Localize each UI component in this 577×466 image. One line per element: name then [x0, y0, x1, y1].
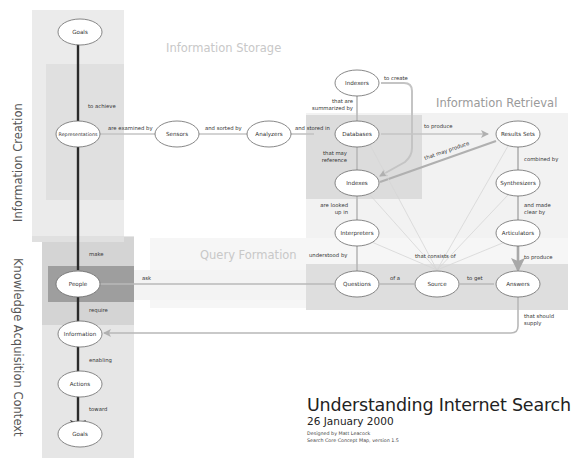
node-indexers[interactable]: Indexers — [335, 70, 379, 96]
node-goals-top[interactable]: Goals — [58, 19, 102, 45]
map-version: Search Core Concept Map, version 1.5 — [307, 437, 571, 444]
edge-label-to-get: to get — [467, 275, 483, 282]
node-sensors[interactable]: Sensors — [155, 121, 199, 147]
edge-label-to-produce-results: to produce — [424, 123, 453, 130]
svg-text:Information: Information — [64, 331, 97, 337]
svg-text:Indexers: Indexers — [345, 80, 369, 86]
side-title-information-creation: Information Creation — [11, 103, 25, 222]
node-results-sets[interactable]: Results Sets — [496, 121, 540, 147]
svg-text:Databases: Databases — [342, 131, 372, 137]
edge-label-ask: ask — [142, 275, 152, 281]
node-actions[interactable]: Actions — [58, 371, 102, 397]
svg-text:Interpreters: Interpreters — [340, 230, 373, 237]
svg-text:Answers: Answers — [506, 281, 530, 287]
title-block: Understanding Internet Search 26 January… — [307, 395, 571, 444]
edge-label-toward: toward — [89, 406, 107, 412]
edge-label-to-produce-answers: to produce — [524, 254, 553, 261]
edge-label-of-a: of a — [390, 275, 400, 281]
designer-credit: Designed by Matt Leacock Search Core Con… — [307, 430, 571, 444]
edge-label-make: make — [89, 251, 104, 257]
svg-text:People: People — [69, 281, 88, 288]
concept-map: Information Storage Information Retrieva… — [0, 0, 577, 466]
svg-text:Results Sets: Results Sets — [501, 131, 535, 137]
node-answers[interactable]: Answers — [496, 271, 540, 297]
edge-label-require: require — [89, 307, 108, 314]
node-source[interactable]: Source — [415, 271, 459, 297]
page-title: Understanding Internet Search — [307, 395, 571, 415]
edge-label-reference: reference — [322, 157, 347, 163]
title-date: 26 January 2000 — [307, 415, 571, 427]
edge-label-and-sorted-by: and sorted by — [205, 125, 242, 132]
edge-label-are-examined-by: are examined by — [108, 125, 153, 132]
svg-text:Articulators: Articulators — [502, 230, 534, 236]
region-title-query-formation: Query Formation — [200, 248, 297, 262]
node-people[interactable]: People — [56, 271, 100, 297]
edge-label-summarized-by: summarized by — [312, 105, 353, 112]
node-analyzers[interactable]: Analyzers — [247, 121, 291, 147]
node-goals-bottom[interactable]: Goals — [58, 421, 102, 447]
edge-label-combined-by: combined by — [524, 156, 558, 163]
edge-label-are-looked: are looked — [320, 202, 348, 208]
svg-text:Goals: Goals — [72, 29, 88, 35]
edge-label-enabling: enabling — [89, 357, 112, 364]
edge-label-that-should: that should — [524, 313, 554, 319]
node-questions[interactable]: Questions — [335, 271, 379, 297]
edge-label-to-create: to create — [384, 75, 408, 81]
svg-text:Source: Source — [427, 281, 447, 287]
svg-text:Representations: Representations — [59, 132, 98, 137]
svg-text:Sensors: Sensors — [166, 131, 188, 137]
edge-label-understood-by: understood by — [309, 252, 347, 259]
people-row-strip — [134, 270, 306, 300]
edge-label-and-made: and made — [524, 202, 551, 208]
edge-label-that-are: that are — [332, 98, 353, 104]
svg-text:Questions: Questions — [343, 281, 371, 287]
svg-text:Goals: Goals — [72, 431, 88, 437]
region-title-information-storage: Information Storage — [166, 41, 281, 55]
node-representations[interactable]: Representations — [56, 121, 100, 147]
edge-label-clear-by: clear by — [524, 209, 545, 216]
edge-label-that-may: that may — [323, 150, 347, 157]
svg-text:Indexes: Indexes — [346, 180, 368, 186]
svg-text:Actions: Actions — [70, 381, 91, 387]
node-indexes[interactable]: Indexes — [335, 170, 379, 196]
node-synthesizers[interactable]: Synthesizers — [496, 170, 540, 196]
edge-label-up-in: up in — [335, 209, 348, 216]
edge-label-to-achieve: to achieve — [88, 103, 116, 109]
node-interpreters[interactable]: Interpreters — [335, 220, 379, 246]
svg-text:Synthesizers: Synthesizers — [500, 180, 536, 187]
svg-text:Analyzers: Analyzers — [255, 131, 282, 138]
edge-label-supply: supply — [524, 320, 541, 327]
designer-name: Designed by Matt Leacock — [307, 430, 571, 437]
node-databases[interactable]: Databases — [335, 121, 379, 147]
side-title-knowledge-acquisition: Knowledge Acquisition Context — [11, 258, 25, 437]
region-title-information-retrieval: Information Retrieval — [436, 96, 557, 110]
node-articulators[interactable]: Articulators — [496, 220, 540, 246]
node-information[interactable]: Information — [58, 321, 102, 347]
edge-label-that-consists-of: that consists of — [415, 253, 456, 259]
edge-label-and-stored-in: and stored in — [295, 125, 330, 131]
